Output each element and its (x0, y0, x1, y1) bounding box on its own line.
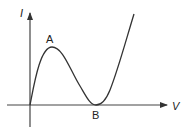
valley-point-label: B (92, 109, 99, 121)
y-axis-label: I (20, 7, 23, 19)
iv-curve (30, 14, 134, 105)
iv-curve-diagram: I V A B (0, 0, 188, 131)
peak-point-label: A (46, 33, 54, 45)
x-axis-label: V (172, 100, 181, 112)
